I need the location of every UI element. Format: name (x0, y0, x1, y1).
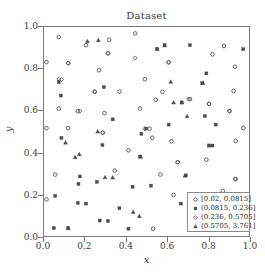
data-point (241, 126, 245, 130)
data-point (97, 68, 101, 72)
data-point (170, 140, 174, 144)
data-point (169, 80, 173, 84)
x-tick-mark (43, 237, 44, 242)
data-point (167, 123, 170, 126)
data-point (143, 77, 147, 81)
data-point (96, 130, 100, 134)
data-point (78, 175, 81, 178)
data-point (127, 227, 130, 230)
data-point (45, 60, 49, 64)
x-tick-label: 0.6 (152, 241, 182, 251)
data-point (207, 102, 211, 106)
data-point (179, 202, 182, 205)
data-point (107, 38, 111, 42)
y-tick-mark (38, 110, 43, 111)
data-point (234, 139, 238, 143)
legend-item[interactable]: (0.5705, 3.761] (190, 222, 247, 231)
data-point (205, 72, 208, 75)
data-point (118, 90, 122, 94)
data-point (45, 126, 49, 130)
data-point (161, 90, 165, 94)
legend-label: (0.5705, 3.761] (201, 222, 255, 231)
data-point (138, 107, 142, 111)
data-point (85, 39, 89, 43)
data-point (133, 56, 137, 60)
data-point (64, 141, 68, 145)
data-point (176, 160, 180, 164)
legend-label: [0.02, 0.0815] (201, 195, 251, 204)
data-point (111, 118, 114, 121)
data-point (211, 53, 215, 57)
data-point (137, 214, 141, 218)
data-point (57, 35, 61, 39)
scatter-series-2 (57, 51, 237, 181)
x-tick-mark (126, 237, 127, 242)
y-tick-label: 0.4 (12, 148, 38, 158)
data-point (84, 43, 88, 47)
data-point (102, 86, 105, 89)
data-point (127, 148, 131, 152)
data-point (73, 155, 77, 159)
data-point (154, 98, 158, 102)
data-point (96, 38, 100, 42)
data-point (54, 194, 57, 197)
data-point (77, 182, 80, 185)
data-point (233, 65, 237, 69)
x-axis-label: x (43, 254, 250, 265)
data-point (101, 144, 104, 147)
data-point (148, 127, 152, 131)
x-tick-mark (167, 237, 168, 242)
legend-marker-icon (190, 213, 201, 222)
y-axis-tick-labels: 0.00.20.40.60.81.0 (10, 0, 38, 275)
y-tick-label: 0.8 (12, 63, 38, 73)
data-point (52, 227, 55, 230)
y-axis-label: y (3, 110, 14, 150)
x-tick-label: 0.4 (111, 241, 141, 251)
data-point (172, 100, 176, 104)
data-point (106, 219, 109, 222)
data-point (205, 158, 209, 162)
data-point (151, 227, 155, 231)
data-point (59, 94, 62, 97)
y-tick-label: 0.6 (12, 105, 38, 115)
legend-marker-icon (190, 204, 201, 213)
x-tick-mark (84, 237, 85, 242)
x-tick-label: 1.0 (235, 241, 265, 251)
legend-item[interactable]: (0.236, 0.5705] (190, 213, 247, 222)
page-title: Dataset (43, 10, 250, 21)
legend-marker-icon (190, 222, 201, 231)
data-point (85, 202, 88, 205)
data-point (66, 61, 70, 65)
data-point (106, 52, 110, 56)
y-tick-label: 1.0 (12, 21, 38, 31)
data-point (103, 175, 107, 179)
y-tick-label: 0.2 (12, 190, 38, 200)
data-point (95, 180, 98, 183)
data-point (131, 210, 135, 214)
x-tick-label: 0.8 (194, 241, 224, 251)
data-point (232, 89, 236, 93)
data-point (159, 173, 163, 177)
legend-item[interactable]: [0.02, 0.0815] (190, 195, 247, 204)
data-point (150, 184, 153, 187)
data-point (66, 126, 70, 130)
data-point (57, 107, 61, 111)
data-point (185, 114, 189, 118)
data-point (228, 109, 232, 113)
data-point (118, 207, 121, 210)
data-point (214, 123, 217, 126)
data-point (103, 111, 107, 115)
legend-label: (0.0815, 0.236] (201, 204, 255, 213)
data-point (222, 44, 226, 48)
x-tick-mark (209, 237, 210, 242)
x-axis-tick-labels: 0.00.20.40.60.81.0 (0, 241, 265, 255)
data-point (167, 60, 171, 64)
data-point (60, 136, 63, 139)
data-point (188, 44, 191, 47)
legend-item[interactable]: (0.0815, 0.236] (190, 204, 247, 213)
y-tick-mark (38, 26, 43, 27)
data-point (203, 115, 206, 118)
data-point (113, 169, 117, 173)
data-point (76, 201, 79, 204)
data-point (77, 152, 81, 156)
